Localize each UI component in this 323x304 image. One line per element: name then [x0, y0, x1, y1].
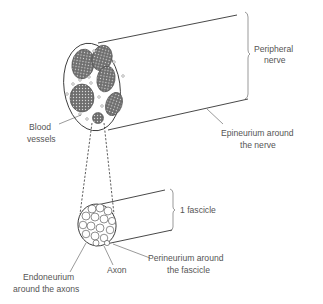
axon-leader	[104, 246, 113, 265]
label-peripheral-nerve-2: nerve	[264, 55, 286, 65]
label-blood-vessels-2: vessels	[27, 134, 56, 144]
labels: Peripheral nerve Blood vessels Epineuriu…	[13, 44, 294, 294]
selected-fascicle	[93, 113, 104, 124]
label-perineurium-1: Perineurium around	[148, 253, 224, 263]
label-endoneurium-1: Endoneurium	[23, 272, 74, 282]
label-epineurium-1: Epineurium around	[221, 128, 294, 138]
zoom-lines	[80, 123, 114, 214]
label-fascicle: 1 fascicle	[180, 205, 216, 215]
axons	[79, 204, 115, 246]
label-endoneurium-2: around the axons	[13, 284, 79, 294]
perineurium-leader	[113, 244, 150, 258]
label-epineurium-2: the nerve	[240, 140, 276, 150]
peripheral-nerve-diagram: Peripheral nerve Blood vessels Epineuriu…	[0, 0, 323, 304]
nerve-cylinder	[58, 12, 250, 134]
peripheral-nerve-bracket	[245, 12, 250, 99]
endoneurium-leader	[70, 243, 86, 272]
label-axon: Axon	[107, 265, 127, 275]
fascicle-bracket	[170, 189, 175, 231]
label-perineurium-2: the fascicle	[167, 265, 210, 275]
label-peripheral-nerve-1: Peripheral	[254, 44, 293, 54]
label-blood-vessels-1: Blood	[29, 122, 51, 132]
fascicles	[70, 43, 126, 124]
